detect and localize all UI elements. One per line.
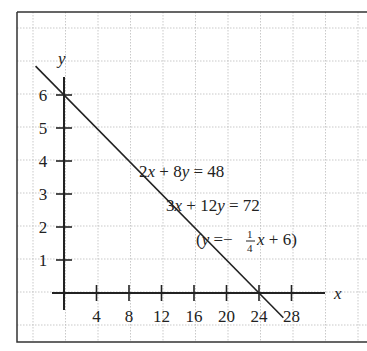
svg-text:x + 6): x + 6) bbox=[256, 230, 297, 249]
y-tick-label: 2 bbox=[39, 218, 48, 237]
equation-label-2: 3x + 12y = 72 bbox=[166, 196, 260, 215]
y-tick-label: 4 bbox=[39, 152, 48, 171]
y-tick-label: 1 bbox=[39, 251, 48, 270]
y-tick-label: 5 bbox=[39, 119, 48, 138]
x-tick-label: 4 bbox=[92, 307, 101, 326]
x-tick-label: 12 bbox=[153, 307, 170, 326]
equation-label-slope-form: (y =− 1 4 x + 6) bbox=[196, 228, 297, 254]
svg-text:(y =−: (y =− bbox=[196, 230, 233, 249]
svg-text:1: 1 bbox=[247, 228, 253, 240]
x-tick-label: 24 bbox=[251, 307, 269, 326]
svg-text:4: 4 bbox=[247, 242, 253, 254]
equation-line bbox=[36, 66, 284, 318]
y-axis-label: y bbox=[56, 49, 66, 68]
x-tick-label: 28 bbox=[283, 307, 300, 326]
x-tick-label: 8 bbox=[125, 307, 134, 326]
equation-label-1: 2x + 8y = 48 bbox=[139, 162, 224, 181]
y-tick-label: 3 bbox=[39, 185, 48, 204]
x-tick-label: 16 bbox=[186, 307, 203, 326]
x-tick-label: 20 bbox=[218, 307, 235, 326]
linear-equation-graph: 481216202428123456 y x 2x + 8y = 48 3x +… bbox=[0, 0, 367, 351]
y-tick-label: 6 bbox=[39, 86, 48, 105]
x-axis-label: x bbox=[333, 284, 342, 303]
